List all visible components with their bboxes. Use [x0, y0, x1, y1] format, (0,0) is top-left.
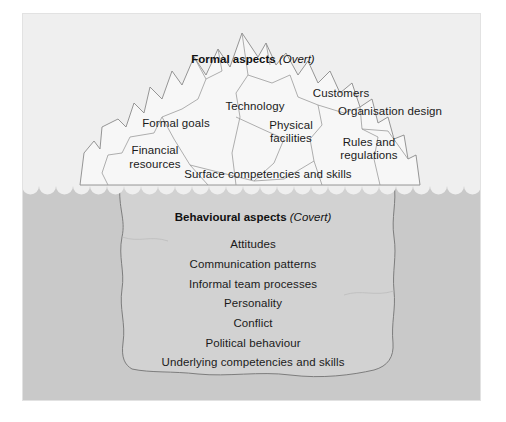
hdr-overt-italic: (Overt): [276, 53, 315, 65]
covert-label-conflict: Conflict: [233, 317, 272, 331]
covert-label-attitudes: Attitudes: [230, 238, 276, 252]
covert-label-political-behaviour: Political behaviour: [205, 337, 300, 351]
covert-label-communication-patterns: Communication patterns: [190, 258, 317, 272]
overt-section-title: Formal aspects (Overt): [191, 52, 314, 66]
figure-stage: Formal aspects (Overt) Behavioural aspec…: [0, 0, 506, 422]
hdr-covert-italic: (Covert): [287, 211, 332, 223]
overt-label-customers: Customers: [313, 87, 370, 101]
overt-label-rules-line2: regulations: [340, 149, 397, 163]
overt-label-formal-goals: Formal goals: [142, 117, 210, 131]
overt-label-physical-line1: Physical: [269, 119, 313, 133]
hdr-covert-bold: Behavioural aspects: [175, 211, 287, 223]
overt-label-rules-line1: Rules and: [343, 136, 396, 150]
overt-label-physical-line2: facilities: [270, 132, 312, 146]
overt-label-financial-line2: resources: [129, 158, 180, 172]
covert-label-underlying-competencies: Underlying competencies and skills: [161, 356, 344, 370]
overt-label-financial-line1: Financial: [132, 144, 179, 158]
overt-label-technology: Technology: [225, 100, 284, 114]
overt-label-organisation-design: Organisation design: [338, 105, 442, 119]
hdr-overt-bold: Formal aspects: [191, 53, 275, 65]
overt-label-surface-competencies: Surface competencies and skills: [184, 168, 351, 182]
covert-section-title: Behavioural aspects (Covert): [175, 210, 332, 224]
covert-label-informal-team-processes: Informal team processes: [189, 278, 317, 292]
covert-label-personality: Personality: [224, 297, 282, 311]
